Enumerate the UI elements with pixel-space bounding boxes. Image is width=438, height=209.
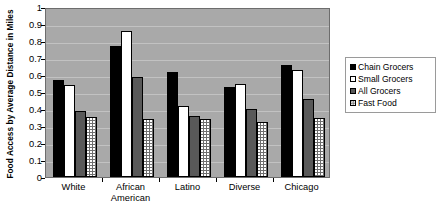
x-axis-category-labels: WhiteAfricanAmericanLatinoDiverseChicago bbox=[45, 182, 330, 209]
bar bbox=[292, 70, 303, 177]
legend-item[interactable]: Fast Food bbox=[350, 97, 432, 109]
bar bbox=[75, 111, 86, 177]
x-axis-category-label: Latino bbox=[159, 182, 216, 193]
legend-swatch-icon bbox=[350, 100, 356, 106]
bar-group bbox=[103, 9, 160, 177]
bar bbox=[246, 109, 257, 177]
y-axis-tick-label: 0.5 bbox=[20, 89, 42, 98]
bar-group bbox=[217, 9, 274, 177]
bar-group bbox=[160, 9, 217, 177]
bar bbox=[178, 106, 189, 177]
bar bbox=[167, 72, 178, 177]
legend-item-label: Small Grocers bbox=[358, 74, 412, 84]
bar-group bbox=[46, 9, 103, 177]
y-axis-tick-labels: 10.90.80.70.60.50.40.30.20.10 bbox=[20, 8, 44, 178]
y-axis-tick-label: 1 bbox=[20, 4, 42, 13]
y-axis-tick-label: 0.7 bbox=[20, 55, 42, 64]
bar-group bbox=[274, 9, 330, 177]
bar bbox=[189, 116, 200, 177]
x-axis-category-label-line: White bbox=[45, 182, 102, 193]
x-axis-category-label-line: African bbox=[102, 182, 159, 193]
bar-chart: Food Access by Average Distance in Miles… bbox=[0, 0, 438, 209]
bar bbox=[200, 119, 211, 177]
legend-item-label: Fast Food bbox=[358, 98, 397, 108]
x-axis-category-label: Diverse bbox=[216, 182, 273, 193]
y-axis-title: Food Access by Average Distance in Miles bbox=[0, 0, 22, 188]
y-axis-tick-label: 0.9 bbox=[20, 21, 42, 30]
bars-layer bbox=[46, 9, 329, 177]
bar bbox=[314, 118, 325, 178]
bar bbox=[235, 84, 246, 178]
bar bbox=[110, 46, 121, 177]
legend-item[interactable]: Small Grocers bbox=[350, 73, 432, 85]
legend-swatch-icon bbox=[350, 64, 356, 70]
bar bbox=[121, 31, 132, 177]
bar bbox=[303, 99, 314, 177]
y-axis-tick-label: 0.8 bbox=[20, 38, 42, 47]
x-axis-category-label: AfricanAmerican bbox=[102, 182, 159, 204]
y-axis-tick-label: 0.3 bbox=[20, 123, 42, 132]
y-axis-tick-label: 0.1 bbox=[20, 157, 42, 166]
x-axis-category-label: White bbox=[45, 182, 102, 193]
y-axis-tick-label: 0.6 bbox=[20, 72, 42, 81]
bar bbox=[53, 80, 64, 177]
legend-item-label: Chain Grocers bbox=[358, 62, 413, 72]
bar bbox=[257, 122, 268, 177]
legend-swatch-icon bbox=[350, 88, 356, 94]
legend-item[interactable]: All Grocers bbox=[350, 85, 432, 97]
legend-swatch-icon bbox=[350, 76, 356, 82]
x-axis-category-label: Chicago bbox=[273, 182, 330, 193]
x-axis-category-label-line: American bbox=[102, 193, 159, 204]
bar bbox=[143, 119, 154, 177]
bar bbox=[224, 87, 235, 177]
y-axis-tick-label: 0.2 bbox=[20, 140, 42, 149]
bar bbox=[64, 85, 75, 177]
y-axis-title-text: Food Access by Average Distance in Miles bbox=[6, 9, 16, 178]
legend-item[interactable]: Chain Grocers bbox=[350, 61, 432, 73]
legend-item-label: All Grocers bbox=[358, 86, 401, 96]
plot-area bbox=[45, 8, 330, 178]
chart-legend: Chain GrocersSmall GrocersAll GrocersFas… bbox=[345, 57, 436, 113]
bar bbox=[132, 77, 143, 177]
y-axis-tick-label: 0 bbox=[20, 174, 42, 183]
x-axis-category-label-line: Chicago bbox=[273, 182, 330, 193]
bar bbox=[281, 65, 292, 177]
x-axis-category-label-line: Diverse bbox=[216, 182, 273, 193]
y-axis-tick-label: 0.4 bbox=[20, 106, 42, 115]
x-axis-category-label-line: Latino bbox=[159, 182, 216, 193]
bar bbox=[86, 117, 97, 177]
